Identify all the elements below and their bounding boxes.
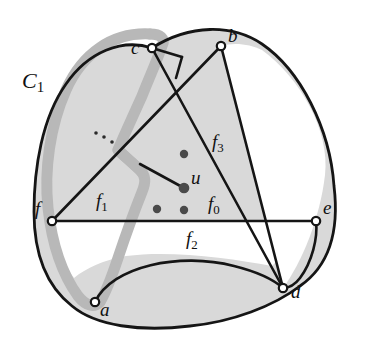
face-label-f2: f2 — [186, 229, 198, 252]
face-label-f1: f1 — [96, 191, 108, 214]
vertex-a[interactable] — [91, 298, 99, 306]
face-label-f3: f3 — [212, 132, 224, 155]
face-label-f1-sub: 1 — [101, 199, 107, 214]
vertex-c[interactable] — [148, 44, 156, 52]
ellipsis-dot — [102, 135, 106, 139]
cycle-label-c1-base: C — [22, 68, 37, 93]
vertex-label-f: f — [35, 199, 40, 218]
figure-root: C1 a b c d e f u f0 f1 f2 f3 — [0, 0, 365, 347]
ellipsis-dot — [110, 140, 114, 144]
vertex-label-d: d — [291, 282, 301, 301]
face-label-f0-sub: 0 — [213, 202, 219, 217]
face-label-f2-sub: 2 — [191, 237, 197, 252]
ellipsis-dot — [94, 131, 98, 135]
vertex-d[interactable] — [279, 284, 287, 292]
cycle-label-c1-sub: 1 — [37, 79, 44, 95]
vertex-label-u: u — [191, 168, 201, 187]
vertex-f[interactable] — [48, 217, 56, 225]
graph-canvas — [0, 0, 365, 347]
inner-dot — [180, 206, 188, 214]
inner-dot — [180, 150, 188, 158]
vertex-u[interactable] — [179, 183, 188, 192]
vertex-b[interactable] — [217, 42, 225, 50]
vertex-label-a: a — [100, 300, 110, 319]
cycle-label-c1: C1 — [22, 70, 44, 95]
vertex-label-b: b — [228, 26, 238, 45]
face-label-f0: f0 — [208, 194, 220, 217]
vertex-label-c: c — [131, 38, 139, 57]
vertex-e[interactable] — [312, 217, 320, 225]
inner-dot — [153, 205, 161, 213]
vertex-label-e: e — [323, 198, 331, 217]
face-label-f3-sub: 3 — [217, 140, 223, 155]
